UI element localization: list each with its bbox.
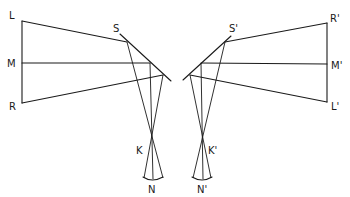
label-R: R: [9, 101, 16, 112]
label-R-prime: R': [330, 13, 340, 24]
reflected-ray-R: [144, 75, 163, 178]
label-N-prime: N': [197, 184, 207, 195]
reflected-ray-L-prime: [190, 75, 211, 178]
ray-R-prime-to-mirror: [225, 23, 327, 42]
right-optical-system: [183, 23, 327, 180]
eye-lens-N-prime: [192, 177, 212, 180]
left-optical-system: [22, 21, 171, 180]
label-L-prime: L': [331, 101, 339, 112]
ray-L-to-mirror: [22, 21, 127, 42]
reflected-ray-L: [127, 42, 163, 178]
stereoscope-ray-diagram: L M R S K N R' M' L' S' K' N': [0, 0, 350, 197]
label-K: K: [136, 145, 143, 156]
label-L: L: [9, 10, 15, 21]
label-S: S: [113, 23, 119, 34]
label-N: N: [148, 184, 155, 195]
label-M-prime: M': [331, 60, 342, 71]
label-S-prime: S': [229, 23, 238, 34]
mirror-S: [120, 34, 171, 81]
label-K-prime: K': [208, 145, 217, 156]
label-M: M: [7, 58, 16, 69]
reflected-ray-M: [150, 63, 153, 179]
ray-L-prime-to-mirror: [190, 75, 327, 102]
mirror-S-prime: [183, 36, 231, 80]
reflected-ray-M-prime: [201, 63, 203, 179]
reflected-ray-R-prime: [193, 42, 225, 178]
